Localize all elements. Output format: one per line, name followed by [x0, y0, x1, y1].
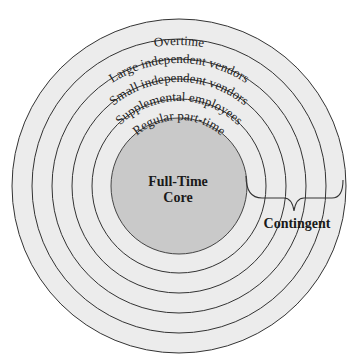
- core-label-line2: Core: [163, 190, 192, 205]
- contingent-label: Contingent: [264, 216, 331, 231]
- core-label-line1: Full-Time: [148, 174, 208, 189]
- workforce-ring-diagram: Overtime Large independent vendors Small…: [0, 0, 358, 364]
- ring-label-overtime: Overtime: [153, 33, 206, 50]
